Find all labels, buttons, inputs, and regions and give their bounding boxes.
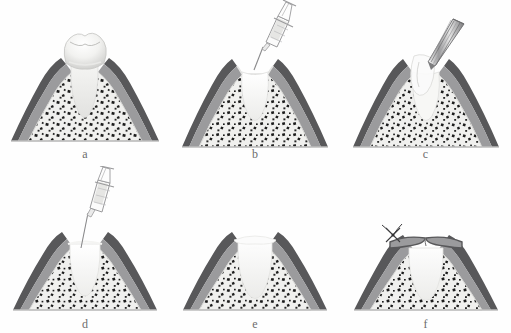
syringe-icon	[254, 0, 296, 70]
panel-f-label: f	[340, 318, 511, 330]
panel-d: d	[0, 166, 170, 333]
panel-d-illustration	[0, 166, 170, 333]
panel-b-illustration	[170, 0, 340, 166]
figure-panel-grid: a	[0, 0, 511, 333]
panel-d-label: d	[0, 318, 170, 330]
panel-e-illustration	[170, 166, 340, 333]
panel-b: b	[170, 0, 340, 166]
suture-tail-2	[393, 224, 402, 235]
panel-c-illustration	[340, 0, 511, 166]
syringe-needle	[254, 47, 263, 70]
flap-left	[390, 237, 425, 248]
suture-knot	[392, 234, 395, 237]
syringe-plunger-rod	[98, 167, 110, 183]
panel-c-label: c	[340, 148, 511, 160]
panel-a-label: a	[0, 148, 170, 160]
graft-crest-cap	[234, 236, 276, 244]
suture-tail-1	[382, 225, 393, 235]
panel-e-label: e	[170, 318, 340, 330]
panel-b-label: b	[170, 148, 340, 160]
panel-c: c	[340, 0, 511, 166]
flap-right	[426, 237, 462, 248]
panel-f: f	[340, 166, 511, 333]
curette-stripe-2	[434, 22, 458, 64]
syringe-needle	[81, 213, 88, 248]
panel-a-illustration	[0, 0, 170, 166]
tooth-crown	[64, 33, 106, 69]
panel-f-illustration	[340, 166, 511, 333]
syringe-hub	[262, 43, 270, 51]
panel-a: a	[0, 0, 170, 166]
panel-e: e	[170, 166, 340, 333]
curette-instrument-icon	[428, 19, 464, 70]
